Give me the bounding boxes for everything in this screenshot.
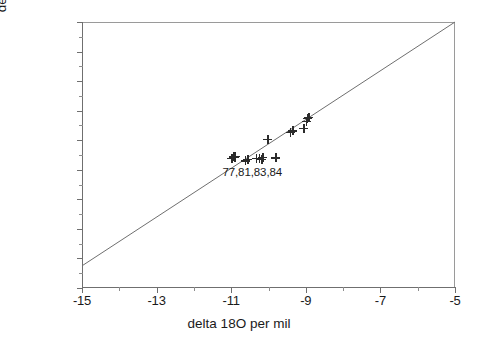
data-annotation-label: 77,81,83,84 <box>222 166 282 178</box>
x-tick-label: -9 <box>286 294 326 307</box>
plot-area: -120-110-100-90-80-70-60-50-40-30 -15-13… <box>82 22 455 288</box>
x-tick-label: -13 <box>137 294 177 307</box>
scatter-plot-figure: -120-110-100-90-80-70-60-50-40-30 -15-13… <box>0 0 478 348</box>
x-tick-label: -11 <box>211 294 251 307</box>
x-tick-label: -5 <box>435 294 475 307</box>
y-axis-title: delta 2H per mil <box>0 0 9 60</box>
x-axis-title: delta 18O per mil <box>0 316 478 331</box>
x-tick-label: -15 <box>62 294 102 307</box>
x-tick-label: -7 <box>360 294 400 307</box>
reference-line <box>82 22 455 288</box>
